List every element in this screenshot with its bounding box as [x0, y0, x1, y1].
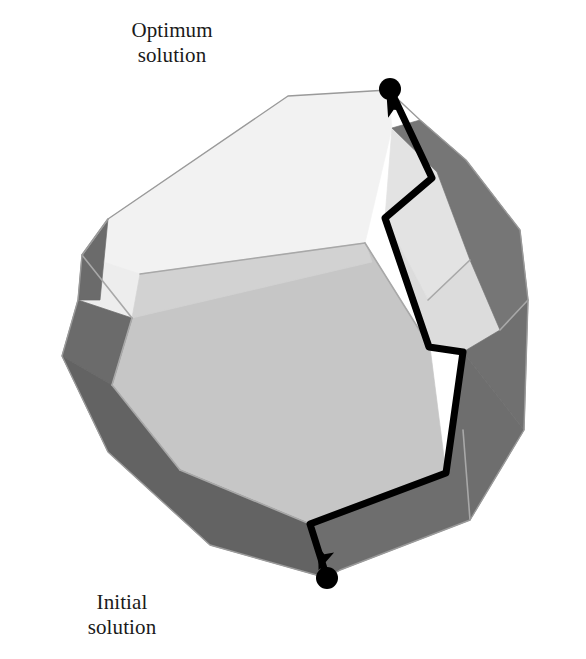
initial-label-line2: solution: [0, 615, 252, 640]
polytope-illustration: [0, 0, 586, 659]
optimum-solution-vertex-dot: [379, 78, 401, 100]
initial-solution-label: Initial solution: [0, 590, 252, 640]
initial-label-line1: Initial: [0, 590, 252, 615]
optimum-solution-label: Optimum solution: [42, 18, 302, 68]
figure-root: Optimum solution Initial solution: [0, 0, 586, 659]
optimum-label-line2: solution: [42, 43, 302, 68]
polytope-faces: [62, 90, 528, 578]
initial-solution-vertex-dot: [316, 567, 338, 589]
optimum-label-line1: Optimum: [42, 18, 302, 43]
